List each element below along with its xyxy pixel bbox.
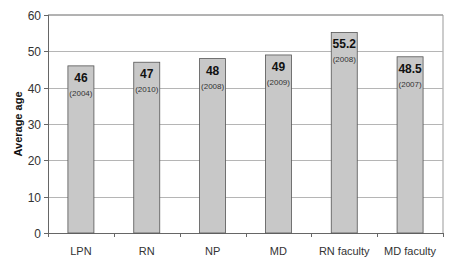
y-axis: 0102030405060 bbox=[28, 9, 49, 241]
bar-year-label: (2010) bbox=[135, 85, 158, 94]
bar-year-label: (2004) bbox=[69, 89, 92, 98]
bar-value-label: 55.2 bbox=[333, 37, 357, 51]
y-axis-label: Average age bbox=[12, 91, 24, 156]
x-tick-label: LPN bbox=[70, 245, 91, 257]
x-axis: LPNRNNPMDRN facultyMD faculty bbox=[48, 233, 444, 257]
bar-value-label: 46 bbox=[74, 71, 88, 85]
bar-chart: 0102030405060 LPNRNNPMDRN facultyMD facu… bbox=[0, 0, 458, 273]
y-tick-label: 50 bbox=[28, 45, 42, 59]
bar-value-label: 48.5 bbox=[398, 62, 422, 76]
y-tick-label: 0 bbox=[34, 227, 41, 241]
x-tick-label: NP bbox=[205, 245, 220, 257]
y-tick-label: 30 bbox=[28, 118, 42, 132]
x-tick-label: RN faculty bbox=[319, 245, 370, 257]
bars: 46(2004)47(2010)48(2008)49(2009)55.2(200… bbox=[68, 32, 423, 233]
bar-value-label: 48 bbox=[206, 64, 220, 78]
bar-year-label: (2008) bbox=[201, 82, 224, 91]
y-tick-label: 40 bbox=[28, 82, 42, 96]
x-tick-label: MD bbox=[270, 245, 287, 257]
bar-year-label: (2008) bbox=[333, 55, 356, 64]
bar-year-label: (2009) bbox=[267, 78, 290, 87]
y-tick-label: 60 bbox=[28, 9, 42, 23]
y-tick-label: 20 bbox=[28, 154, 42, 168]
x-tick-label: MD faculty bbox=[384, 245, 436, 257]
bar-year-label: (2007) bbox=[399, 80, 422, 89]
y-tick-label: 10 bbox=[28, 191, 42, 205]
gridlines bbox=[48, 15, 443, 233]
x-tick-label: RN bbox=[139, 245, 155, 257]
bar-value-label: 49 bbox=[272, 60, 286, 74]
bar-value-label: 47 bbox=[140, 67, 154, 81]
